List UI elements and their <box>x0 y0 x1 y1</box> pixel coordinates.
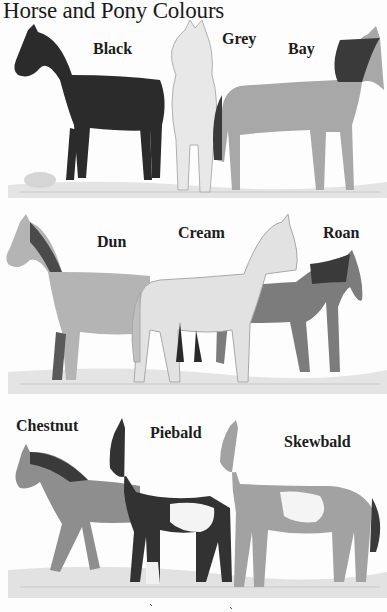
row-3-illustration: Chestnut Piebald Skewbald <box>0 412 387 612</box>
label-grey: Grey <box>222 30 256 48</box>
label-cream: Cream <box>178 224 225 242</box>
label-piebald: Piebald <box>150 424 202 442</box>
row-1-horses-drawing <box>0 20 387 205</box>
label-skewbald: Skewbald <box>284 433 351 451</box>
row-1-illustration: Black Grey Bay <box>0 20 387 205</box>
grey-horse <box>172 20 217 192</box>
label-chestnut: Chestnut <box>16 417 78 435</box>
label-black: Black <box>93 40 132 58</box>
label-bay: Bay <box>288 40 315 58</box>
label-dun: Dun <box>97 233 126 251</box>
piebald-horse <box>110 418 232 584</box>
label-roan: Roan <box>323 224 359 242</box>
dun-horse <box>6 214 150 380</box>
black-horse <box>14 24 164 180</box>
illustration-page: Horse and Pony Colours Bl <box>0 0 387 612</box>
row-2-illustration: Dun Cream Roan <box>0 212 387 397</box>
